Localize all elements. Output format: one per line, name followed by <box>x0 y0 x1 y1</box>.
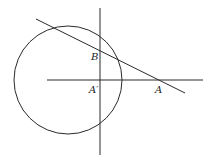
geometry-diagram: B A′ A <box>0 0 212 161</box>
label-a: A <box>154 84 162 95</box>
secant-line <box>36 19 185 93</box>
label-a-prime: A′ <box>88 84 99 95</box>
label-b: B <box>90 51 98 62</box>
